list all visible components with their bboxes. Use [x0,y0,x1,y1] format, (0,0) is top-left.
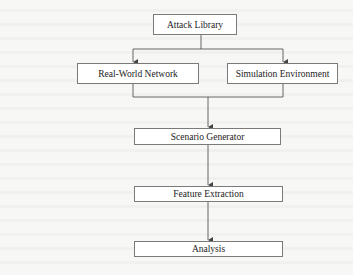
node-real-world-network: Real-World Network [77,63,199,84]
node-analysis: Analysis [134,241,283,257]
node-label: Analysis [192,244,225,254]
node-label: Real-World Network [98,69,178,79]
node-label: Scenario Generator [171,132,245,142]
node-attack-library: Attack Library [153,14,237,35]
node-simulation-environment: Simulation Environment [227,63,338,84]
node-label: Simulation Environment [236,69,330,79]
node-label: Feature Extraction [173,189,243,199]
flowchart-diagram: Attack Library Real-World Network Simula… [0,0,353,275]
node-label: Attack Library [167,20,223,30]
node-feature-extraction: Feature Extraction [134,186,283,202]
node-scenario-generator: Scenario Generator [134,128,281,145]
